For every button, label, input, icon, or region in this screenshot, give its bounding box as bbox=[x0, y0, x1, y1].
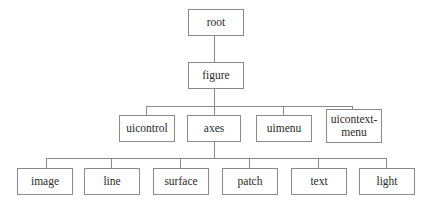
edge-to-text bbox=[318, 158, 319, 168]
edge-figure-children-bar bbox=[146, 106, 352, 107]
edge-to-surface bbox=[180, 158, 181, 168]
node-light: light bbox=[359, 168, 415, 195]
node-uicontrol: uicontrol bbox=[119, 115, 175, 142]
node-image: image bbox=[17, 168, 73, 195]
node-root: root bbox=[188, 9, 244, 36]
node-patch: patch bbox=[222, 168, 278, 195]
edge-to-uimenu bbox=[283, 106, 284, 115]
edge-to-patch bbox=[249, 158, 250, 168]
node-figure: figure bbox=[188, 62, 244, 89]
edge-to-light bbox=[386, 158, 387, 168]
node-uimenu: uimenu bbox=[256, 115, 312, 142]
node-uicontextmenu: uicontext- menu bbox=[326, 109, 382, 143]
edge-to-line bbox=[111, 158, 112, 168]
edge-axes-children-bar bbox=[46, 158, 387, 159]
edge-to-axes bbox=[214, 106, 215, 115]
edge-axes-down bbox=[214, 141, 215, 159]
edge-to-image bbox=[46, 158, 47, 168]
node-line: line bbox=[84, 168, 140, 195]
node-axes: axes bbox=[187, 115, 241, 142]
edge-to-uicontrol bbox=[146, 106, 147, 115]
edge-root-figure bbox=[214, 35, 215, 62]
node-surface: surface bbox=[153, 168, 209, 195]
node-text: text bbox=[291, 168, 347, 195]
edge-figure-down bbox=[214, 88, 215, 106]
